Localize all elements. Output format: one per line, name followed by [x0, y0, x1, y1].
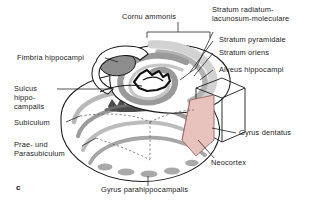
label-neocortex: Neocortex	[211, 159, 246, 168]
label-alveus-hippocampi: Alveus hippocampi	[219, 66, 284, 75]
label-gyrus-parahippocampalis: Gyrus parahippocampalis	[101, 186, 188, 195]
leader-cornu-ammonis-bracket	[147, 32, 210, 38]
label-sulcus-hippocampalis-line3: campalis	[14, 103, 44, 112]
label-gyrus-dentatus: Gyrus dentatus	[239, 129, 291, 138]
label-stratum-pyramidale: Stratum pyramidale	[219, 36, 286, 45]
label-subiculum: Subiculum	[14, 119, 50, 128]
label-cornu-ammonis: Cornu ammonis	[122, 13, 176, 22]
hippocampus-figure: Cornu ammonis Stratum radiatum- lacunosu…	[0, 0, 320, 207]
hippocampus-illustration	[0, 0, 320, 207]
label-stratum-radiatum-line2: lacunosum-moleculare	[212, 15, 289, 24]
label-prae-parasubiculum-line2: Parasubiculum	[14, 150, 65, 159]
panel-letter: c	[16, 183, 20, 192]
label-stratum-oriens: Stratum oriens	[219, 49, 269, 58]
label-fimbria-hippocampi: Fimbria hippocampi	[17, 54, 84, 63]
